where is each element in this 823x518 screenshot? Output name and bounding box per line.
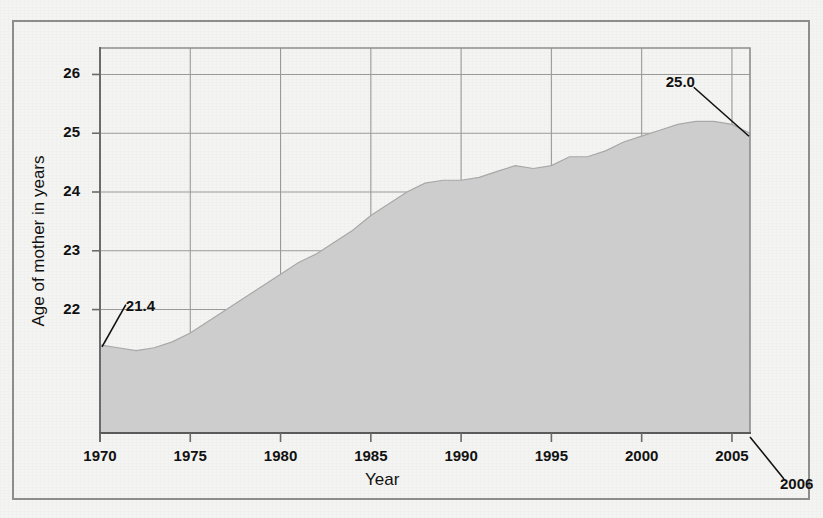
x-tick-label: 1985	[341, 447, 401, 464]
area-series-group	[100, 121, 750, 433]
chart-canvas	[0, 0, 823, 518]
y-tick-label: 23	[46, 241, 80, 258]
x-tick-label: 1995	[521, 447, 581, 464]
x-tick-label: 1990	[431, 447, 491, 464]
data-point-annotation: 21.4	[126, 297, 155, 314]
x-tick-label: 1970	[70, 447, 130, 464]
y-tick-label: 25	[46, 123, 80, 140]
area-fill	[100, 121, 750, 433]
x-axis-title: Year	[365, 470, 399, 490]
x-tick-label: 2005	[702, 447, 762, 464]
data-point-annotation: 25.0	[666, 73, 695, 90]
end-year-callout-label: 2006	[780, 475, 813, 492]
chart-figure: Age of mother in years Year 2223242526 1…	[0, 0, 823, 518]
x-tick-label: 2000	[612, 447, 672, 464]
x-tick-label: 1975	[160, 447, 220, 464]
x-tick-label: 1980	[251, 447, 311, 464]
y-tick-label: 24	[46, 182, 80, 199]
y-tick-label: 26	[46, 64, 80, 81]
y-tick-label: 22	[46, 300, 80, 317]
leader-line-start	[102, 305, 126, 347]
